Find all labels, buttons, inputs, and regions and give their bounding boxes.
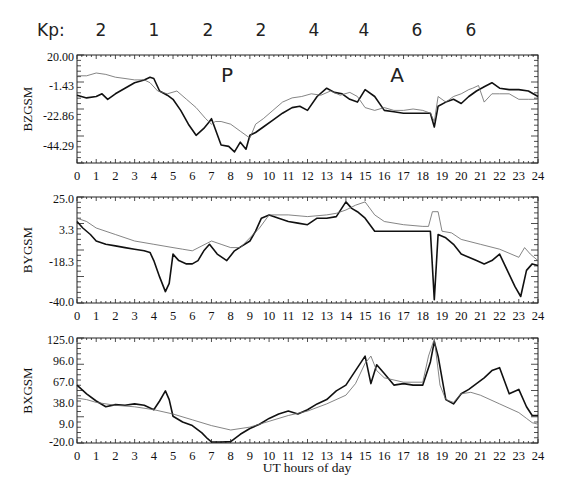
y-tick-label: 96.0 xyxy=(53,354,74,368)
x-tick-label: 14 xyxy=(340,309,353,323)
x-tick-label: 18 xyxy=(417,169,430,183)
x-tick-label: 0 xyxy=(74,309,80,323)
x-tick-label: 6 xyxy=(189,449,195,463)
x-tick-label: 5 xyxy=(170,309,176,323)
x-tick-label: 16 xyxy=(378,449,391,463)
x-tick-label: 20 xyxy=(455,169,468,183)
y-tick-label: -22.86 xyxy=(43,109,74,123)
x-tick-label: 21 xyxy=(474,309,487,323)
x-tick-label: 22 xyxy=(493,449,506,463)
x-tick-label: 23 xyxy=(513,169,526,183)
panel-bxgsm: 125.096.067.038.09.0-20.0BXGSM0123456789… xyxy=(20,333,545,463)
x-tick-label: 11 xyxy=(282,309,294,323)
x-tick-label: 17 xyxy=(397,169,410,183)
x-tick-label: 9 xyxy=(247,309,253,323)
series-model xyxy=(77,73,538,138)
x-tick-label: 13 xyxy=(320,169,333,183)
y-tick-label: -1.43 xyxy=(49,79,74,93)
x-tick-label: 23 xyxy=(513,309,526,323)
y-axis-label: BYGSM xyxy=(20,226,35,273)
annotation-a: A xyxy=(390,63,404,87)
x-tick-label: 7 xyxy=(208,309,214,323)
panel-bygsm: 25.03.3-18.3-40.0BYGSM012345678910111213… xyxy=(20,192,545,323)
x-tick-label: 6 xyxy=(189,309,195,323)
x-tick-label: 1 xyxy=(93,169,99,183)
x-tick-label: 0 xyxy=(74,169,80,183)
kp-value-6: 4 xyxy=(359,20,370,40)
x-tick-label: 21 xyxy=(474,449,487,463)
x-tick-label: 19 xyxy=(436,449,449,463)
x-tick-label: 2 xyxy=(112,449,118,463)
x-tick-label: 16 xyxy=(378,309,391,323)
x-tick-label: 8 xyxy=(228,449,234,463)
x-tick-label: 15 xyxy=(359,169,372,183)
x-tick-label: 8 xyxy=(228,309,234,323)
y-tick-label: 3.3 xyxy=(59,223,74,237)
kp-label: Kp: xyxy=(37,20,65,40)
x-tick-label: 17 xyxy=(397,449,410,463)
x-tick-label: 5 xyxy=(170,169,176,183)
kp-value-3: 2 xyxy=(203,20,214,40)
x-tick-label: 8 xyxy=(228,169,234,183)
x-tick-label: 21 xyxy=(474,169,487,183)
x-tick-label: 22 xyxy=(493,309,506,323)
x-tick-label: 3 xyxy=(132,449,138,463)
series-observed xyxy=(77,77,538,152)
x-tick-label: 15 xyxy=(359,449,372,463)
y-axis-label: BZGSM xyxy=(20,86,35,131)
x-tick-label: 9 xyxy=(247,169,253,183)
kp-value-5: 4 xyxy=(309,20,320,40)
x-tick-label: 2 xyxy=(112,169,118,183)
x-tick-label: 12 xyxy=(301,169,314,183)
x-tick-label: 10 xyxy=(263,169,276,183)
x-tick-label: 10 xyxy=(263,309,276,323)
x-tick-label: 3 xyxy=(132,169,138,183)
x-tick-label: 4 xyxy=(151,309,158,323)
kp-header: Kp: 2 1 2 2 4 4 6 6 xyxy=(37,20,476,40)
y-tick-label: 9.0 xyxy=(59,417,74,431)
x-tick-label: 20 xyxy=(455,309,468,323)
y-tick-label: 38.0 xyxy=(53,396,74,410)
kp-value-4: 2 xyxy=(256,20,267,40)
y-tick-label: -20.0 xyxy=(49,435,74,449)
kp-value-1: 2 xyxy=(96,20,107,40)
x-tick-label: 11 xyxy=(282,169,294,183)
x-tick-label: 18 xyxy=(417,309,430,323)
y-tick-label: 125.0 xyxy=(47,333,74,347)
x-tick-label: 23 xyxy=(513,449,526,463)
x-tick-label: 2 xyxy=(112,309,118,323)
x-tick-label: 19 xyxy=(436,169,449,183)
kp-value-7: 6 xyxy=(412,20,423,40)
x-tick-label: 15 xyxy=(359,309,372,323)
x-tick-label: 19 xyxy=(436,309,449,323)
figure: Kp: 2 1 2 2 4 4 6 6 20.00-1.43-22.86-44.… xyxy=(0,0,571,499)
x-tick-label: 16 xyxy=(378,169,391,183)
x-tick-label: 22 xyxy=(493,169,506,183)
x-tick-label: 20 xyxy=(455,449,468,463)
y-tick-label: -44.29 xyxy=(43,139,74,153)
y-tick-label: -18.3 xyxy=(49,255,74,269)
x-tick-label: 4 xyxy=(151,169,158,183)
x-tick-label: 5 xyxy=(170,449,176,463)
x-tick-label: 24 xyxy=(532,449,545,463)
y-tick-label: 25.0 xyxy=(53,192,74,206)
y-tick-label: 67.0 xyxy=(53,375,74,389)
series-model xyxy=(77,339,538,430)
plot-frame xyxy=(77,338,538,443)
plot-frame xyxy=(77,197,538,303)
x-tick-label: 4 xyxy=(151,449,158,463)
x-tick-label: 17 xyxy=(397,309,410,323)
y-axis-label: BXGSM xyxy=(20,367,35,414)
y-tick-label: 20.00 xyxy=(47,50,74,64)
x-tick-label: 7 xyxy=(208,449,214,463)
x-tick-label: 14 xyxy=(340,169,353,183)
y-tick-label: -40.0 xyxy=(49,295,74,309)
x-tick-label: 1 xyxy=(93,449,99,463)
x-tick-label: 1 xyxy=(93,309,99,323)
x-tick-label: 24 xyxy=(532,309,545,323)
x-tick-label: 0 xyxy=(74,449,80,463)
x-tick-label: 24 xyxy=(532,169,545,183)
x-tick-label: 13 xyxy=(320,309,333,323)
panel-bzgsm: 20.00-1.43-22.86-44.29BZGSM0123456789101… xyxy=(20,50,545,183)
kp-value-8: 6 xyxy=(466,20,477,40)
